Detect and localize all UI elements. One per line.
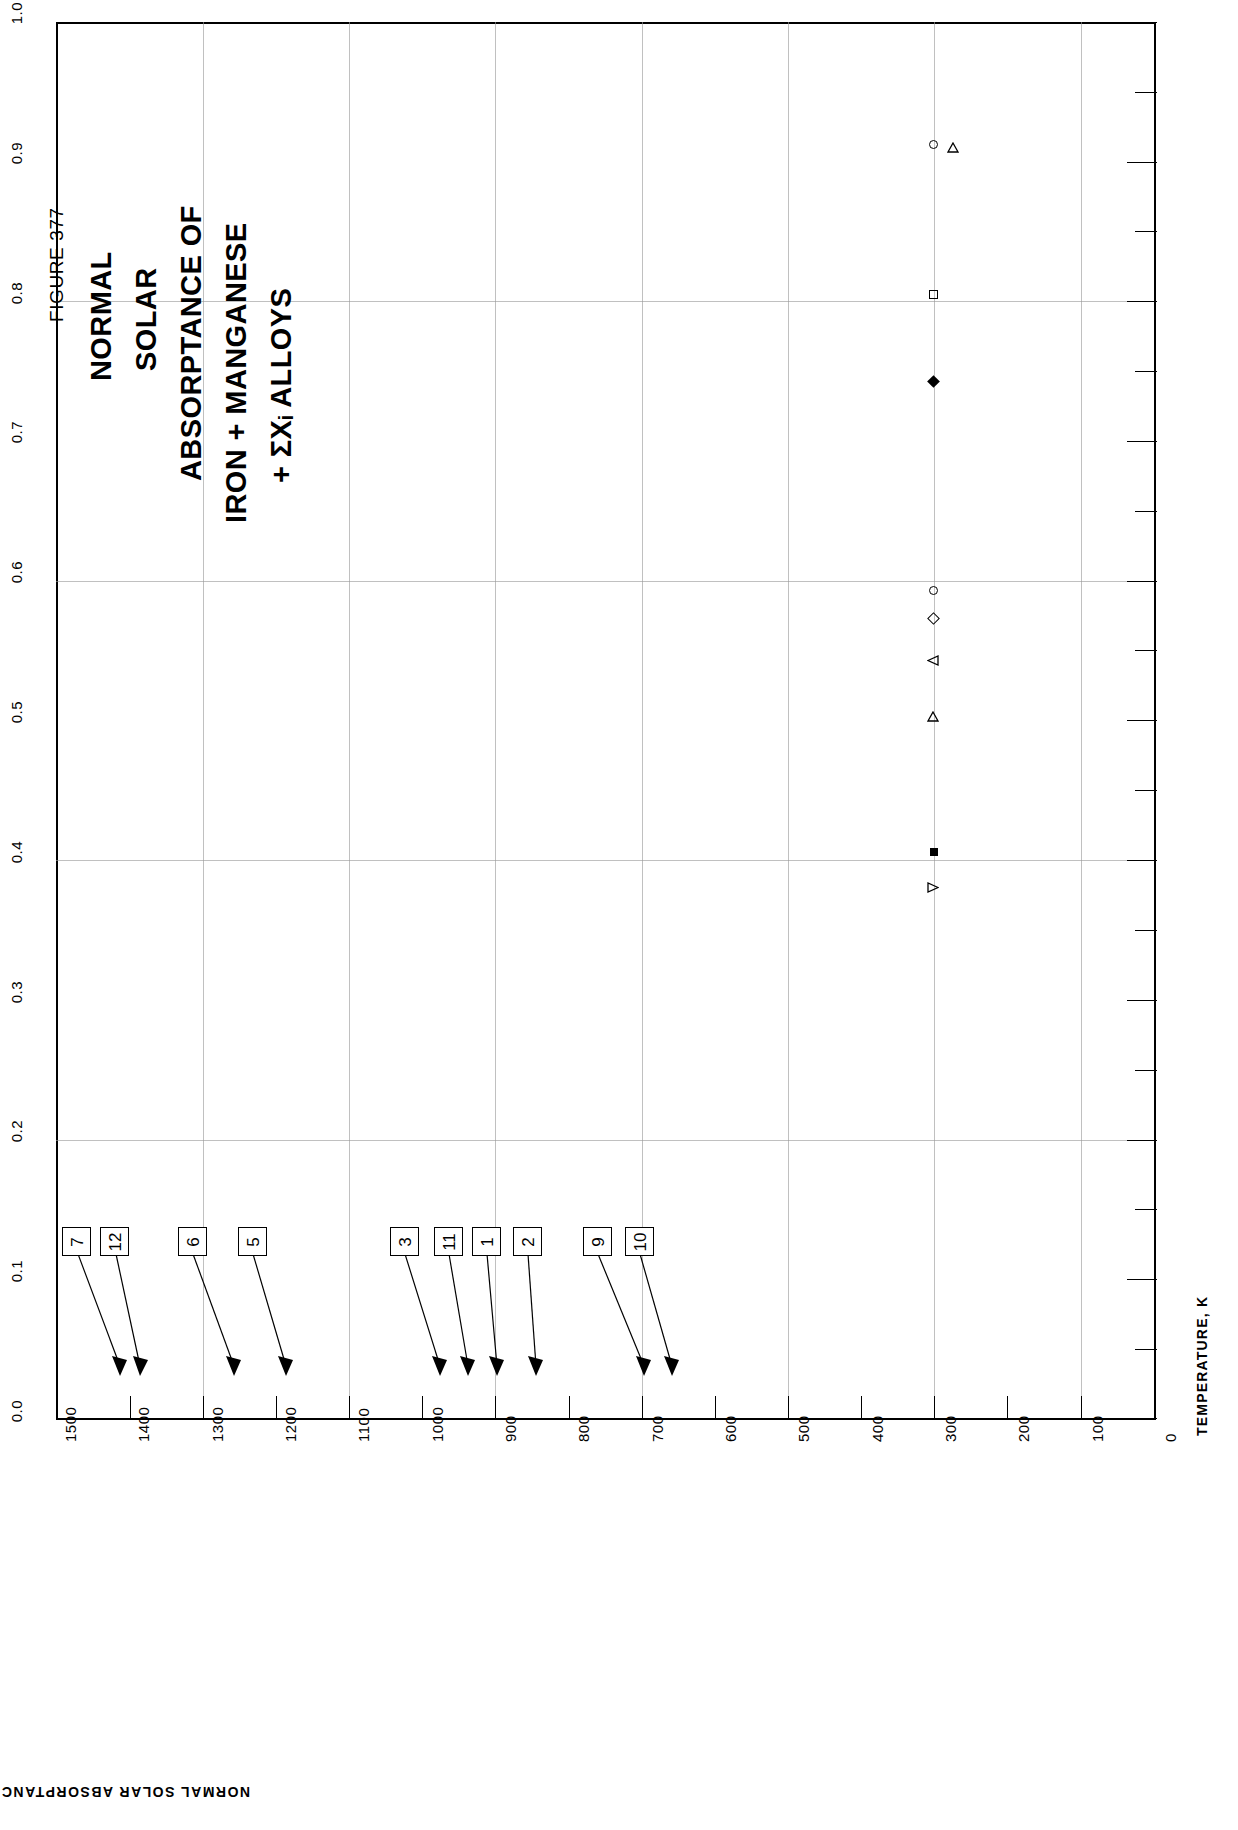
tick-temp-100 (1081, 1396, 1082, 1420)
tick-abs-0-9 (1127, 162, 1157, 163)
data-point-curve-9 (930, 848, 938, 856)
xlabel-temp-1300: 1300 (209, 1407, 226, 1442)
gridline-temp-1100 (349, 22, 350, 1420)
ylabel-abs-0-6: 0.6 (8, 561, 25, 601)
curve-label-3[interactable]: 3 (390, 1227, 419, 1256)
tick-temp-1400 (130, 1396, 131, 1420)
ylabel-abs-0-2: 0.2 (8, 1120, 25, 1160)
tick-abs-0-65 (1135, 511, 1157, 512)
xlabel-temp-200: 200 (1015, 1415, 1032, 1442)
xlabel-temp-800: 800 (575, 1415, 592, 1442)
data-point-curve-7 (929, 140, 938, 149)
curve-label-1[interactable]: 1 (472, 1227, 501, 1256)
curve-label-12[interactable]: 12 (100, 1227, 129, 1256)
curve-label-10-text: 10 (631, 1232, 648, 1251)
xlabel-temp-400: 400 (869, 1415, 886, 1442)
tick-abs-0-1 (1127, 1279, 1157, 1280)
xlabel-temp-1500: 1500 (62, 1407, 79, 1442)
tick-temp-1500 (57, 1396, 58, 1420)
tick-abs-0-15 (1135, 1209, 1157, 1210)
curve-label-5[interactable]: 5 (238, 1227, 267, 1256)
curve-label-5-text: 5 (244, 1237, 261, 1246)
tick-abs-0-85 (1135, 231, 1157, 232)
frame-top (56, 22, 1156, 24)
tick-abs-0-55 (1135, 650, 1157, 651)
curve-label-1-text: 1 (478, 1237, 495, 1246)
ylabel-abs-0-4: 0.4 (8, 841, 25, 881)
data-point-curve-10 (927, 879, 939, 897)
data-point-curve-2 (927, 708, 939, 726)
data-point-curve-3 (929, 586, 938, 595)
tick-abs-0-8 (1127, 301, 1157, 302)
tick-temp-400 (861, 1396, 862, 1420)
ylabel-abs-0-9: 0.9 (8, 142, 25, 182)
curve-label-2[interactable]: 2 (513, 1227, 542, 1256)
data-point-curve-1 (927, 652, 939, 670)
title-line-4: IRON + MANGANESE (220, 223, 253, 523)
xlabel-temp-700: 700 (649, 1415, 666, 1442)
xlabel-temp-300: 300 (942, 1415, 959, 1442)
tick-temp-700 (642, 1396, 643, 1420)
tick-abs-0-0 (1127, 1418, 1157, 1419)
curve-label-3-text: 3 (396, 1237, 413, 1246)
gridline-absorptance-0-6 (56, 581, 1156, 582)
tick-abs-0-75 (1135, 371, 1157, 372)
xlabel-temp-500: 500 (795, 1415, 812, 1442)
ylabel-abs-0-1: 0.1 (8, 1260, 25, 1300)
curve-label-12-text: 12 (106, 1232, 123, 1251)
curve-label-2-text: 2 (519, 1237, 536, 1246)
x-axis-title: TEMPERATURE, K (1194, 1296, 1210, 1436)
curve-label-9[interactable]: 9 (583, 1227, 612, 1256)
xlabel-temp-900: 900 (502, 1415, 519, 1442)
xlabel-temp-1000: 1000 (429, 1407, 446, 1442)
tick-abs-0-2 (1127, 1140, 1157, 1141)
xlabel-temp-1100: 1100 (355, 1408, 372, 1442)
gridline-temp-900 (495, 22, 496, 1420)
xlabel-temp-600: 600 (722, 1415, 739, 1442)
tick-temp-1300 (203, 1396, 204, 1420)
gridline-temp-500 (788, 22, 789, 1420)
data-point-curve-5 (927, 375, 940, 388)
tick-abs-0-95 (1135, 92, 1157, 93)
tick-temp-1200 (276, 1396, 277, 1420)
tick-temp-0 (1154, 1396, 1155, 1420)
xlabel-temp-0: 0 (1162, 1433, 1179, 1442)
gridline-absorptance-0-4 (56, 860, 1156, 861)
ylabel-abs-1: 1.0 (8, 2, 25, 42)
tick-abs-0-25 (1135, 1070, 1157, 1071)
y-axis-title: NORMAL SOLAR ABSORPTANCE (0, 1784, 250, 1800)
tick-abs-0-4 (1127, 860, 1157, 861)
curve-label-11[interactable]: 11 (434, 1227, 463, 1256)
ylabel-abs-0-8: 0.8 (8, 282, 25, 322)
data-point-curve-6 (929, 290, 938, 299)
tick-abs-0-6 (1127, 581, 1157, 582)
tick-temp-300 (934, 1396, 935, 1420)
title-line-5: + ΣXᵢ ALLOYS (265, 288, 298, 483)
tick-temp-200 (1007, 1396, 1008, 1420)
xlabel-temp-1200: 1200 (282, 1407, 299, 1442)
curve-label-9-text: 9 (589, 1237, 606, 1246)
title-line-3: ABSORPTANCE OF (175, 205, 208, 481)
tick-temp-900 (495, 1396, 496, 1420)
data-point-curve-12 (947, 139, 959, 157)
curve-label-11-text: 11 (440, 1233, 457, 1251)
ylabel-abs-0-7: 0.7 (8, 421, 25, 461)
tick-abs-0-3 (1127, 1000, 1157, 1001)
curve-label-10[interactable]: 10 (625, 1227, 654, 1256)
tick-abs-0-45 (1135, 790, 1157, 791)
curve-label-6[interactable]: 6 (178, 1227, 207, 1256)
tick-abs-0-35 (1135, 930, 1157, 931)
figure-canvas: 7 12 6 5 3 11 1 2 9 10 FIGURE 377 NORMAL… (0, 0, 1238, 1830)
gridline-temp-700 (642, 22, 643, 1420)
ylabel-abs-0-5: 0.5 (8, 701, 25, 741)
tick-abs-1-0 (1127, 22, 1157, 23)
curve-label-6-text: 6 (184, 1237, 201, 1246)
tick-abs-0-5 (1127, 720, 1157, 721)
tick-abs-0-05 (1135, 1349, 1157, 1350)
title-line-2: SOLAR (130, 268, 163, 372)
title-line-1: NORMAL (85, 251, 118, 381)
gridline-absorptance-0-2 (56, 1140, 1156, 1141)
ylabel-abs-0: 0.0 (8, 1400, 25, 1440)
tick-temp-500 (788, 1396, 789, 1420)
curve-label-7[interactable]: 7 (62, 1227, 91, 1256)
